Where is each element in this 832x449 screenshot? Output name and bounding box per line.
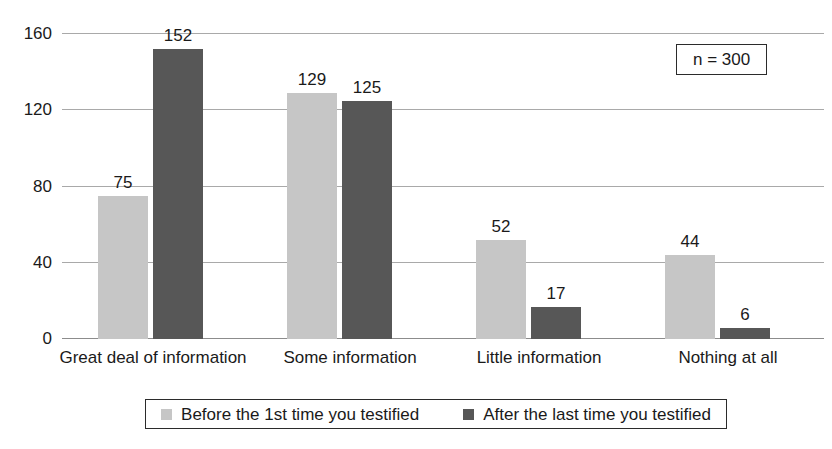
bar-value-before-2: 52 xyxy=(492,218,511,235)
bar-value-after-2: 17 xyxy=(547,285,566,302)
chart-legend: Before the 1st time you testified After … xyxy=(145,399,727,429)
bar-rect-after-1 xyxy=(342,101,392,339)
bar-rect-after-2 xyxy=(531,307,581,339)
bar-rect-before-0 xyxy=(98,196,148,339)
bar-rect-before-3 xyxy=(665,255,715,339)
legend-item-after[interactable]: After the last time you testified xyxy=(463,406,711,423)
bar-rect-after-0 xyxy=(153,49,203,339)
bar-group-some-information: 129 125 xyxy=(287,34,392,339)
bar-group-great-deal-of-information: 75 152 xyxy=(98,34,203,339)
bar-rect-before-1 xyxy=(287,93,337,339)
legend-label-after: After the last time you testified xyxy=(483,406,711,423)
ytick-label-80: 80 xyxy=(33,177,52,194)
bar-after-0[interactable]: 152 xyxy=(153,49,203,339)
category-label-3: Nothing at all xyxy=(603,349,832,366)
bar-value-before-1: 129 xyxy=(298,71,326,88)
bar-group-nothing-at-all: 44 6 xyxy=(665,34,770,339)
plot-area: 160 120 80 40 0 75 152 129 xyxy=(62,34,824,339)
bar-after-1[interactable]: 125 xyxy=(342,101,392,339)
bar-value-before-0: 75 xyxy=(114,174,133,191)
legend-swatch-after-icon xyxy=(463,409,474,420)
legend-swatch-before-icon xyxy=(161,409,172,420)
bar-before-0[interactable]: 75 xyxy=(98,196,148,339)
bar-after-2[interactable]: 17 xyxy=(531,307,581,339)
bar-value-after-3: 6 xyxy=(740,306,749,323)
ytick-label-40: 40 xyxy=(33,253,52,270)
bar-before-2[interactable]: 52 xyxy=(476,240,526,339)
sample-size-annotation: n = 300 xyxy=(676,44,767,75)
bar-rect-before-2 xyxy=(476,240,526,339)
ytick-label-160: 160 xyxy=(24,25,52,42)
bar-value-after-0: 152 xyxy=(164,27,192,44)
bar-value-before-3: 44 xyxy=(681,233,700,250)
ytick-label-120: 120 xyxy=(24,101,52,118)
bar-before-1[interactable]: 129 xyxy=(287,93,337,339)
bar-value-after-1: 125 xyxy=(353,79,381,96)
legend-item-before[interactable]: Before the 1st time you testified xyxy=(161,406,419,423)
bar-rect-after-3 xyxy=(720,328,770,339)
bar-before-3[interactable]: 44 xyxy=(665,255,715,339)
bar-group-little-information: 52 17 xyxy=(476,34,581,339)
bar-after-3[interactable]: 6 xyxy=(720,328,770,339)
ytick-label-0: 0 xyxy=(43,330,52,347)
legend-label-before: Before the 1st time you testified xyxy=(181,406,419,423)
bar-chart: 160 120 80 40 0 75 152 129 xyxy=(0,0,832,449)
